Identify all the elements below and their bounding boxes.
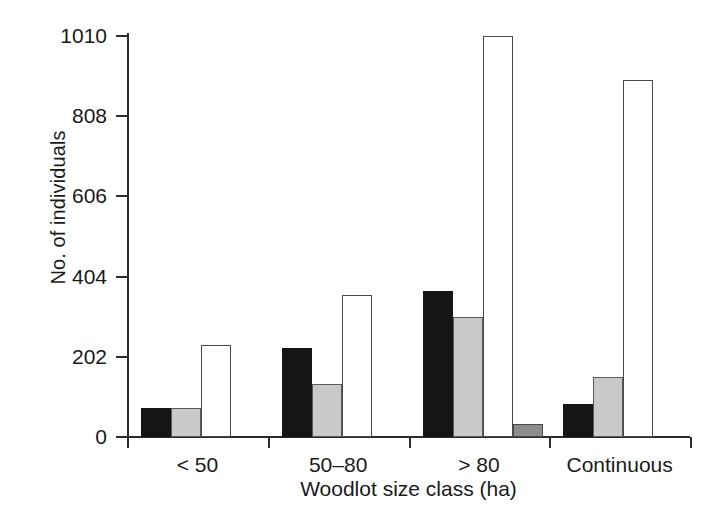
y-tick-label: 808 — [0, 104, 107, 128]
bar-black — [282, 348, 312, 437]
x-tick-label: < 50 — [177, 453, 218, 477]
y-tick-label: 404 — [0, 265, 107, 289]
x-tick-mark — [690, 437, 692, 448]
bar-white — [483, 36, 513, 437]
y-tick-label: 606 — [0, 184, 107, 208]
x-tick-label: 50–80 — [309, 453, 367, 477]
y-tick-mark — [116, 195, 127, 197]
x-tick-label: > 80 — [458, 453, 499, 477]
bar-light-gray — [593, 377, 623, 437]
y-tick-mark — [116, 276, 127, 278]
bar-light-gray — [171, 408, 201, 437]
x-tick-mark — [268, 437, 270, 448]
x-tick-label: Continuous — [567, 453, 673, 477]
x-tick-mark — [409, 437, 411, 448]
y-tick-mark — [116, 115, 127, 117]
bar-light-gray — [312, 384, 342, 437]
bar-white — [342, 295, 372, 437]
y-tick-label: 202 — [0, 345, 107, 369]
bar-light-gray — [453, 317, 483, 437]
y-tick-mark — [116, 35, 127, 37]
bar-chart-figure: No. of individuals 02024046068081010 < 5… — [0, 0, 709, 519]
y-tick-label: 0 — [0, 425, 107, 449]
bar-white — [623, 80, 653, 437]
bar-black — [423, 291, 453, 437]
y-tick-mark — [116, 356, 127, 358]
bar-dark-gray — [513, 424, 543, 437]
x-tick-mark — [549, 437, 551, 448]
y-tick-label: 1010 — [0, 24, 107, 48]
x-tick-mark — [127, 437, 129, 448]
bar-black — [563, 404, 593, 437]
y-tick-mark — [116, 436, 127, 438]
bar-black — [141, 408, 171, 437]
plot-area: 02024046068081010 < 5050–80> 80Continuou… — [127, 36, 690, 437]
bar-white — [201, 345, 231, 437]
x-axis-title: Woodlot size class (ha) — [127, 477, 690, 501]
